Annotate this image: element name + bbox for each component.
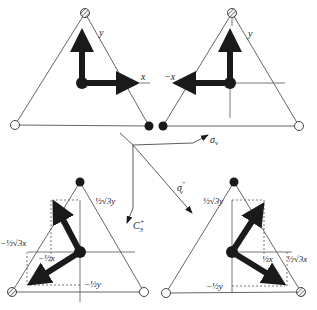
sigma-v2-arrow (133, 145, 192, 213)
rotated-y-vector-arrow (58, 210, 80, 252)
label-minus-half-sqrt3-x: −½√3x (0, 238, 26, 248)
c3-label: C+3 (133, 218, 145, 234)
minus-x-label: −x (164, 71, 176, 82)
diagram-canvas: y x y −x σv C+3 σ″v (0, 0, 317, 310)
hatched-atom (81, 9, 90, 18)
open-atom (140, 288, 149, 297)
hatched-atom (297, 288, 306, 297)
label-half-sqrt3-x: ½√3x (287, 254, 307, 264)
open-atom (11, 121, 20, 130)
filled-atom (76, 178, 85, 187)
label-minus-half-y: −½y (206, 281, 223, 291)
label-minus-half-x: −½x (38, 253, 55, 263)
y-label: y (247, 28, 253, 39)
x-label: x (140, 71, 146, 82)
hatched-atom (228, 9, 237, 18)
filled-atom (145, 122, 154, 131)
center-atom (224, 77, 236, 89)
reflected-y-vector-arrow (232, 212, 258, 252)
label-minus-half-y: −½y (84, 279, 101, 289)
panel-identity: y x (11, 9, 154, 131)
sigma-v-label: σv (210, 134, 219, 147)
panel-sigma-v: y −x (159, 9, 304, 131)
y-label: y (98, 27, 104, 38)
open-atom (162, 289, 171, 298)
center-atom (74, 246, 86, 258)
operations: σv C+3 σ″v (120, 133, 219, 234)
triangle (12, 182, 144, 292)
filled-atom (230, 178, 239, 187)
center-atom (76, 77, 88, 89)
sigma-v2-label: σ″v (177, 180, 185, 196)
center-atom (226, 246, 238, 258)
open-atom (295, 122, 304, 131)
sigma-v-arrow (193, 135, 208, 143)
label-half-x: ½x (262, 254, 273, 264)
triangle (166, 182, 301, 293)
filled-atom (159, 122, 168, 131)
panel-sigma-v2: ½√3y ½x ½√3x −½y (162, 178, 308, 298)
hatched-atom (8, 288, 17, 297)
panel-c3: ½√3y −½√3x −½x −½y (0, 178, 149, 303)
label-half-sqrt3-y: ½√3y (95, 196, 115, 206)
label-half-sqrt3-y: ½√3y (203, 196, 223, 206)
